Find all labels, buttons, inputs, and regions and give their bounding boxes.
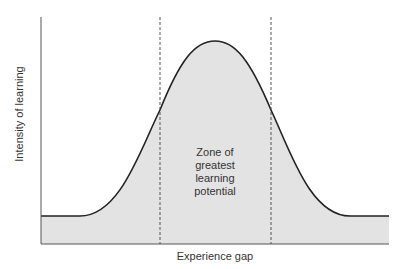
zone-line-4: potential (175, 185, 255, 198)
learning-curve-diagram (0, 0, 408, 269)
zone-annotation: Zone of greatest learning potential (175, 146, 255, 198)
y-axis-label: Intensity of learning (13, 55, 25, 173)
x-axis-label: Experience gap (150, 250, 280, 262)
zone-line-1: Zone of (175, 146, 255, 159)
zone-line-3: learning (175, 172, 255, 185)
zone-line-2: greatest (175, 159, 255, 172)
